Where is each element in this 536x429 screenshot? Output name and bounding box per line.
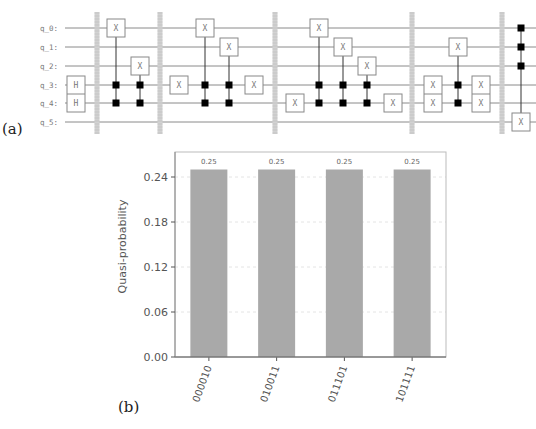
control-dot [340, 100, 347, 107]
gate-x: X [245, 76, 263, 94]
x-tick-label: 011101 [326, 364, 349, 404]
gate-x: X [131, 57, 149, 75]
control-dot [202, 82, 209, 89]
control-dot [364, 82, 371, 89]
gate-x: XX [472, 76, 490, 112]
gate-x: X [358, 57, 376, 75]
bar [190, 170, 227, 358]
gate-label: X [431, 99, 436, 108]
control-dot [364, 100, 371, 107]
qubit-label: q_1: [40, 43, 58, 52]
x-tick-label: 010011 [258, 364, 281, 404]
gate-x: X [449, 38, 467, 56]
control-dot [137, 82, 144, 89]
control-dot [518, 25, 525, 32]
gate-label: X [203, 24, 208, 33]
control-dot [518, 44, 525, 51]
qubit-label: q_2: [40, 62, 58, 71]
gate-label: H [74, 99, 79, 108]
control-dot [316, 100, 323, 107]
control-dot [113, 100, 120, 107]
gate-label: X [317, 24, 322, 33]
data-label: 0.25 [337, 158, 353, 166]
gate-label: X [114, 24, 119, 33]
gate-label: X [227, 43, 232, 52]
gate-x: X [170, 76, 188, 94]
gate-label: X [177, 81, 182, 90]
data-label: 0.25 [201, 158, 217, 166]
gate-x: X [196, 19, 214, 37]
gate-label: X [431, 81, 436, 90]
gate-label: X [365, 62, 370, 71]
gate-x: X [107, 19, 125, 37]
gate-x: X [220, 38, 238, 56]
control-dot [455, 100, 462, 107]
data-label: 0.25 [269, 158, 285, 166]
control-dot [226, 100, 233, 107]
control-dot [202, 100, 209, 107]
bar [326, 170, 363, 358]
gate-label: X [293, 99, 298, 108]
gate-x: X [310, 19, 328, 37]
gate-label: X [479, 81, 484, 90]
gate-label: X [391, 99, 396, 108]
control-dot [137, 100, 144, 107]
control-dot [316, 82, 323, 89]
gate-label: X [341, 43, 346, 52]
gate-h: HH [67, 76, 85, 112]
gate-label: X [252, 81, 257, 90]
qubit-label: q_3: [40, 81, 58, 90]
gate-label: X [456, 43, 461, 52]
y-tick-label: 0.18 [144, 216, 169, 229]
gate-x: XX [424, 76, 442, 112]
qubit-label: q_5: [40, 118, 58, 127]
y-tick-label: 0.06 [144, 306, 169, 319]
gate-x: X [512, 113, 530, 131]
y-axis-label: Quasi-probability [116, 199, 129, 293]
gate-label: X [138, 62, 143, 71]
bar [258, 170, 295, 358]
x-tick-label: 101111 [394, 364, 417, 404]
gate-x: X [286, 94, 304, 112]
y-tick-label: 0.00 [144, 351, 169, 364]
gate-x: X [384, 94, 402, 112]
control-dot [455, 82, 462, 89]
y-tick-label: 0.24 [144, 171, 169, 184]
qubit-label: q_0: [40, 24, 58, 33]
x-tick-label: 000010 [190, 364, 213, 404]
control-dot [340, 82, 347, 89]
bar [394, 170, 431, 358]
qubit-label: q_4: [40, 99, 58, 108]
control-dot [226, 82, 233, 89]
data-label: 0.25 [404, 158, 420, 166]
gate-label: X [479, 99, 484, 108]
control-dot [113, 82, 120, 89]
gate-x: X [334, 38, 352, 56]
quasi-probability-bar-chart: 0.250000100.250100110.250111010.25101111… [0, 140, 536, 429]
y-tick-label: 0.12 [144, 261, 169, 274]
gate-label: X [519, 118, 524, 127]
control-dot [518, 63, 525, 70]
quantum-circuit: q_0:q_1:q_2:q_3:q_4:q_5:HHXXXXXXXXXXXXXX… [0, 0, 536, 140]
gate-label: H [74, 81, 79, 90]
